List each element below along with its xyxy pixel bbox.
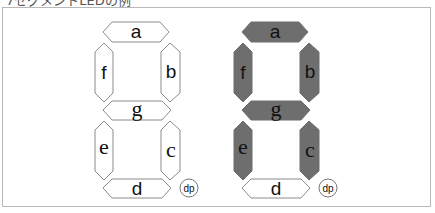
segment-e-label: e <box>238 134 248 159</box>
segment-d-label: d <box>271 178 282 199</box>
dp-label: dp <box>183 183 195 194</box>
segment-d-label: d <box>132 178 143 199</box>
dp-label: dp <box>322 183 334 194</box>
segment-c-label: c <box>166 137 176 162</box>
segment-g-label: g <box>132 96 143 121</box>
segment-b-label: b <box>305 61 316 82</box>
segment-e-label: e <box>99 134 109 159</box>
display-left: a f b g e c d dp <box>95 21 198 199</box>
segment-c-label: c <box>305 137 315 162</box>
segment-f-label: f <box>101 62 107 83</box>
segment-a-label: a <box>270 21 281 42</box>
segment-b-label: b <box>166 61 177 82</box>
display-right: a f b g e c d dp <box>234 21 337 199</box>
segment-a-label: a <box>131 21 142 42</box>
segment-f-label: f <box>240 62 246 83</box>
segment-g-label: g <box>271 96 282 121</box>
seven-segment-diagram: a f b g e c d dp a f b g e c d dp <box>0 0 435 213</box>
